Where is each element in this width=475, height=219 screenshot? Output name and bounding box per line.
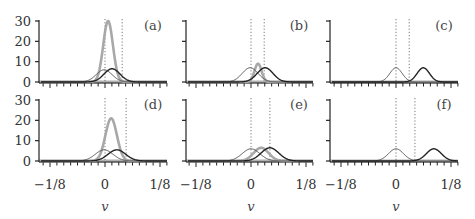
curve-black <box>41 69 167 82</box>
panel-a: 0102030(a) <box>14 14 167 90</box>
y-tick-label: 30 <box>14 14 31 29</box>
x-tick-label: 1/8 <box>296 177 317 192</box>
panel-e: −1/801/8v(e) <box>180 97 316 214</box>
panel-f: −1/801/8v(f) <box>325 97 461 214</box>
y-tick-label: 0 <box>23 154 31 169</box>
x-tick-label: 1/8 <box>150 177 171 192</box>
panel-d: 0102030−1/801/8v(d) <box>14 93 170 215</box>
y-tick-label: 30 <box>14 93 31 108</box>
curve-black <box>188 68 313 82</box>
x-axis-label: v <box>101 199 109 214</box>
x-tick-label: 0 <box>392 177 400 192</box>
x-tick-label: 0 <box>101 177 109 192</box>
panel-c: (c) <box>326 18 458 88</box>
panel-label: (e) <box>290 97 308 112</box>
x-axis-label: v <box>392 199 400 214</box>
x-tick-label: −1/8 <box>180 177 212 192</box>
x-tick-label: 0 <box>247 177 255 192</box>
x-tick-label: −1/8 <box>325 177 357 192</box>
y-tick-label: 10 <box>14 54 31 69</box>
y-tick-label: 20 <box>14 113 31 128</box>
curve-black <box>332 149 458 161</box>
curve-thin <box>41 150 167 161</box>
curve-thin <box>332 68 458 82</box>
curve-thin <box>41 70 167 82</box>
panel-label: (c) <box>435 18 452 33</box>
panel-label: (d) <box>144 97 162 112</box>
curve-black <box>332 68 458 82</box>
curve-black <box>41 150 167 161</box>
x-tick-label: −1/8 <box>34 177 66 192</box>
panel-label: (f) <box>437 97 452 112</box>
panel-label: (a) <box>144 18 162 33</box>
x-axis-label: v <box>247 199 255 214</box>
y-tick-label: 10 <box>14 133 31 148</box>
panel-label: (b) <box>290 18 308 33</box>
x-tick-label: 1/8 <box>441 177 462 192</box>
curve-gray <box>41 118 167 161</box>
figure: 0102030(a)(b)(c)0102030−1/801/8v(d)−1/80… <box>0 0 475 219</box>
y-tick-label: 20 <box>14 34 31 49</box>
y-tick-label: 0 <box>23 75 31 90</box>
panel-b: (b) <box>182 18 313 88</box>
